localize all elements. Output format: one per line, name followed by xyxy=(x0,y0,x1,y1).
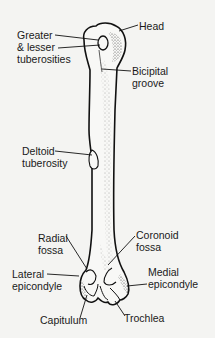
label-bicipital-groove: Bicipital groove xyxy=(132,65,168,89)
leader-radial-fossa xyxy=(66,236,87,269)
label-deltoid-tuberosity: Deltoid tuberosity xyxy=(22,145,68,169)
label-radial-fossa: Radial fossa xyxy=(38,232,68,256)
label-head: Head xyxy=(139,20,164,32)
label-trochlea: Trochlea xyxy=(124,312,164,324)
label-greater-lesser-tuberosities: Greater & lesser tuberosities xyxy=(17,29,71,65)
label-lateral-epicondyle: Lateral epicondyle xyxy=(12,268,62,292)
label-medial-epicondyle: Medial epicondyle xyxy=(148,266,198,290)
label-capitulum: Capitulum xyxy=(40,314,87,326)
label-coronoid-fossa: Coronoid fossa xyxy=(136,229,179,253)
humerus-diagram: Head Greater & lesser tuberosities Bicip… xyxy=(0,0,215,338)
leader-medial-epicondyle xyxy=(127,284,147,286)
leader-head xyxy=(119,25,138,31)
bone-shape xyxy=(80,23,129,305)
